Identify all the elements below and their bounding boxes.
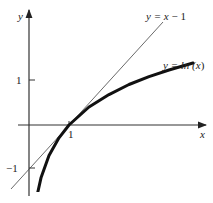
chart-canvas: y x 1 1 −1 y = x − 1 y = ln (x): [0, 0, 213, 203]
ln-curve-label: y = ln (x): [162, 59, 205, 72]
tangent-line-label: y = x − 1: [145, 10, 186, 22]
y-axis-label: y: [17, 10, 23, 22]
ln-curve: [34, 63, 193, 203]
tangent-line: [11, 22, 163, 189]
x-axis-label: x: [199, 128, 205, 140]
x-tick-label-1: 1: [68, 128, 74, 140]
y-tick-label-neg1: −1: [6, 162, 18, 174]
y-tick-label-1: 1: [16, 74, 22, 86]
